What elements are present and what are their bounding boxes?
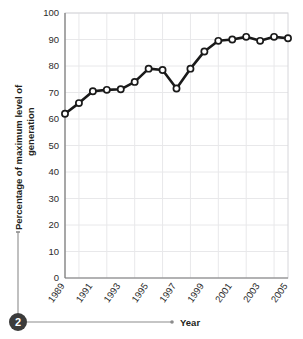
data-point xyxy=(243,34,249,40)
data-point xyxy=(132,79,138,85)
x-tick-label: 2005 xyxy=(269,281,290,305)
data-point xyxy=(146,66,152,72)
y-tick-label: 20 xyxy=(48,219,59,230)
x-tick-label: 1989 xyxy=(46,281,67,305)
chart-container: 0102030405060708090100 19891991199319951… xyxy=(0,0,303,339)
x-axis-tick-labels: 198919911993199519971999200120032005 xyxy=(46,281,290,305)
x-tick-label: 1997 xyxy=(157,281,178,305)
data-point xyxy=(104,87,110,93)
x-tick-label: 1991 xyxy=(73,281,94,305)
y-tick-label: 40 xyxy=(48,166,59,177)
data-point xyxy=(62,111,68,117)
y-tick-label: 90 xyxy=(48,34,59,45)
data-point xyxy=(285,35,291,41)
data-point xyxy=(271,34,277,40)
data-point xyxy=(201,48,207,54)
y-tick-label: 60 xyxy=(48,113,59,124)
x-axis-title: Year xyxy=(180,317,200,328)
y-tick-label: 50 xyxy=(48,140,59,151)
data-point xyxy=(118,86,124,92)
data-point xyxy=(187,66,193,72)
y-axis-title-line2: generation xyxy=(25,107,36,156)
data-point xyxy=(159,67,165,73)
data-point xyxy=(76,100,82,106)
callout-arrow-right xyxy=(170,320,174,324)
data-point xyxy=(173,85,179,91)
y-tick-label: 100 xyxy=(43,7,59,18)
data-point xyxy=(257,38,263,44)
data-point xyxy=(215,38,221,44)
y-tick-label: 80 xyxy=(48,60,59,71)
y-axis-tick-labels: 0102030405060708090100 xyxy=(43,7,59,283)
line-chart: 0102030405060708090100 19891991199319951… xyxy=(0,0,303,339)
callout-badge-number: 2 xyxy=(15,316,21,328)
y-tick-label: 10 xyxy=(48,246,59,257)
data-point xyxy=(90,88,96,94)
y-axis-title-line1: Percentage of maximum level of xyxy=(13,84,24,230)
x-tick-label: 1999 xyxy=(185,281,206,305)
x-tick-label: 2003 xyxy=(241,281,262,305)
x-tick-label: 1995 xyxy=(129,281,150,305)
x-tick-label: 2001 xyxy=(213,281,234,305)
data-point xyxy=(229,36,235,42)
y-tick-label: 70 xyxy=(48,87,59,98)
x-tick-label: 1993 xyxy=(101,281,122,305)
y-tick-label: 30 xyxy=(48,193,59,204)
